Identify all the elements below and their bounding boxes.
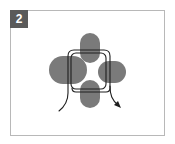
lobe-top	[80, 33, 100, 63]
lobes	[49, 33, 126, 108]
step-number-badge: 2	[10, 10, 28, 28]
lobe-right	[98, 61, 126, 83]
lobe-bottom	[80, 80, 100, 108]
thread-exit-tail	[110, 86, 118, 105]
